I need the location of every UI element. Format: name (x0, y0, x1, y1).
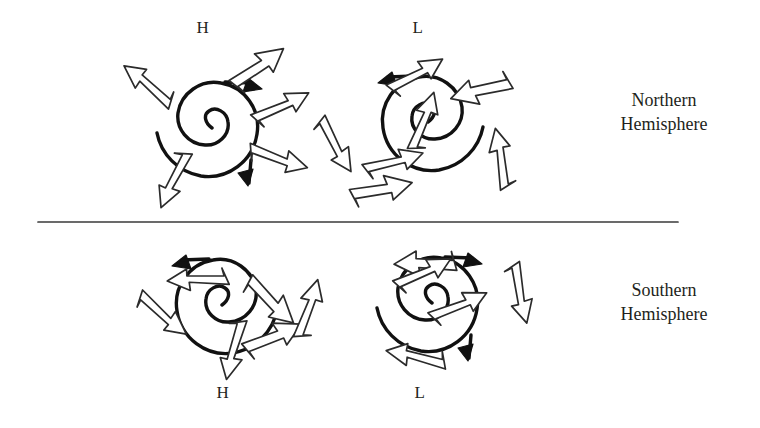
southern-hemisphere-line2: Hemisphere (621, 303, 708, 327)
label-northern-high: H (197, 18, 210, 38)
northern-hemisphere-line1: Northern (621, 89, 708, 113)
system-northern-high (119, 41, 358, 212)
system-southern-high (131, 255, 334, 382)
southern-hemisphere-line1: Southern (621, 279, 708, 303)
diagram-canvas (0, 0, 760, 428)
pressure-circulation-diagram: H L H L Northern Hemisphere Southern Hem… (0, 0, 760, 428)
northern-low-inflow-arrows (349, 53, 516, 208)
label-northern-hemisphere: Northern Hemisphere (621, 89, 708, 137)
southern-high-outflow-arrows (131, 263, 334, 382)
northern-high-outflow-arrows (119, 41, 358, 212)
northern-hemisphere-line2: Hemisphere (621, 113, 708, 137)
label-southern-high: H (217, 383, 230, 403)
system-southern-low (377, 244, 534, 379)
label-southern-hemisphere: Southern Hemisphere (621, 279, 708, 327)
label-southern-low: L (415, 383, 426, 403)
label-northern-low: L (413, 18, 424, 38)
system-northern-low (349, 53, 516, 208)
